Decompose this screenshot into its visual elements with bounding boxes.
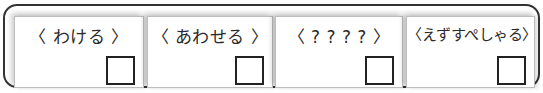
option-card-unknown[interactable]: 〈 ? ? ? ? 〉	[275, 16, 403, 88]
option-card-wakeru[interactable]: 〈 わける 〉	[14, 16, 144, 88]
option-checkbox[interactable]	[106, 56, 135, 85]
option-checkbox[interactable]	[497, 56, 526, 85]
option-label: 〈 ? ? ? ? 〉	[276, 23, 402, 48]
option-card-awaseru[interactable]: 〈 あわせる 〉	[147, 16, 273, 88]
option-checkbox[interactable]	[365, 56, 394, 85]
option-label: 〈 わける 〉	[15, 23, 143, 48]
option-label: 〈えずすぺしゃる〉	[407, 23, 534, 44]
option-card-special[interactable]: 〈えずすぺしゃる〉	[406, 16, 535, 88]
option-label: 〈 あわせる 〉	[148, 23, 272, 48]
option-checkbox[interactable]	[235, 56, 264, 85]
